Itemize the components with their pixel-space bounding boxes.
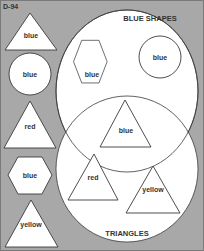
set-label-triangles: TRIANGLES (105, 229, 148, 238)
palette-blue-circle[interactable]: blue (9, 53, 51, 95)
worksheet-code: D-94 (3, 3, 18, 10)
set-label-blue-shapes: BLUE SHAPES (123, 14, 176, 23)
shape-label: blue (23, 172, 37, 179)
worksheet-canvas: D-94 BLUE SHAPES TRIANGLES blue blue b (0, 0, 204, 251)
shape-label: yellow (20, 221, 42, 229)
shape-label: blue (85, 71, 99, 78)
shape-label: blue (119, 127, 133, 134)
shape-label: blue (24, 32, 38, 39)
shape-label: yellow (142, 186, 164, 194)
worksheet: D-94 BLUE SHAPES TRIANGLES blue blue b (0, 0, 204, 251)
shape-label: red (88, 174, 99, 181)
venn-diagram: BLUE SHAPES TRIANGLES blue blue blue red (56, 10, 198, 242)
venn-blue-circle[interactable]: blue (139, 36, 181, 78)
shape-label: blue (153, 54, 167, 61)
shape-label: red (25, 123, 36, 130)
shape-label: blue (23, 71, 37, 78)
palette-blue-hexagon[interactable]: blue (8, 157, 52, 194)
